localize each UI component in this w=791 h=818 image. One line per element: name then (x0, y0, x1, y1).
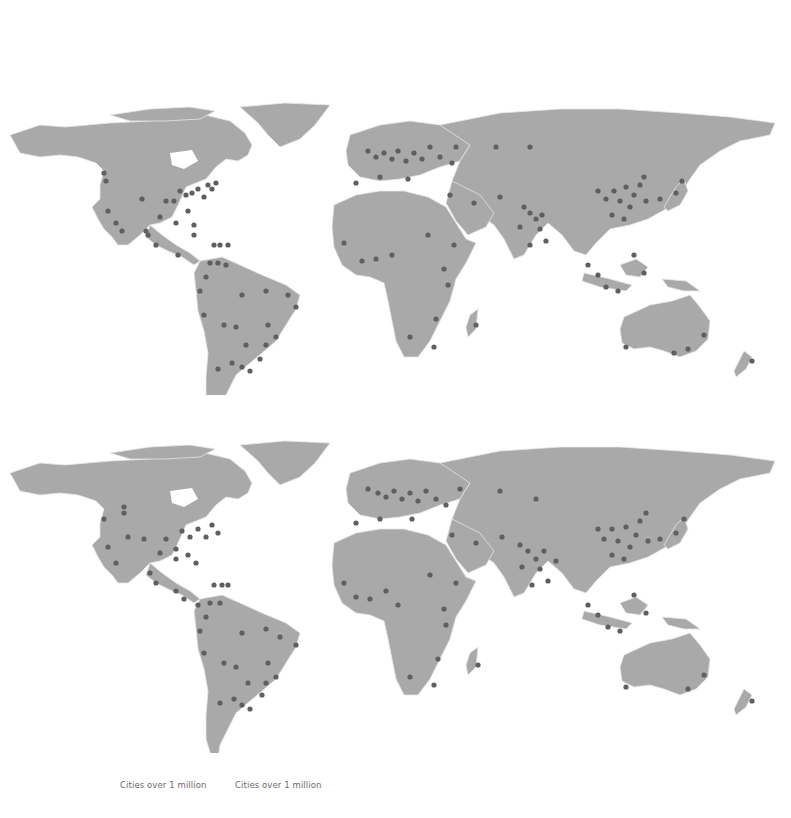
map-top (0, 95, 791, 395)
legend-caption-left: Cities over 1 million (120, 780, 207, 790)
world-land (10, 103, 775, 395)
legend-caption-right: Cities over 1 million (235, 780, 322, 790)
map-bottom (0, 433, 791, 753)
world-land (10, 441, 775, 753)
